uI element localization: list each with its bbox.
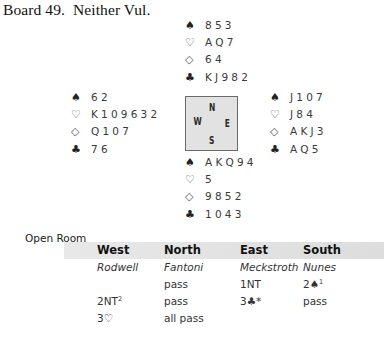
west-diamonds: ◇ Q107 <box>71 123 160 140</box>
south-hearts: ♡ 5 <box>185 171 257 188</box>
bid: pass <box>164 276 188 293</box>
board-title: Board 49. Neither Vul. <box>3 1 150 19</box>
bid-text: pass <box>164 278 188 290</box>
bid: pass <box>164 293 188 310</box>
footnote-marker: 1 <box>319 278 323 286</box>
bid-text: pass <box>164 295 188 307</box>
bid-text: pass <box>303 295 327 307</box>
north-diamonds: ◇ 64 <box>185 51 251 68</box>
east-hearts: ♡ J84 <box>270 106 327 123</box>
auction-header-row: West North East South <box>0 242 384 259</box>
spade-icon: ♠ <box>270 89 290 106</box>
header-north: North <box>164 242 201 259</box>
cards: 853 <box>205 17 235 34</box>
north-clubs: ♣ KJ982 <box>185 69 251 86</box>
spade-icon: ♠ <box>185 154 205 171</box>
heart-icon: ♡ <box>270 106 290 123</box>
cards: K109632 <box>91 106 160 123</box>
south-spades: ♠ AKQ94 <box>185 154 257 171</box>
cards: 9852 <box>205 188 245 205</box>
east-spades: ♠ J107 <box>270 89 327 106</box>
cards: 64 <box>205 51 225 68</box>
cards: 62 <box>91 89 111 106</box>
cards: AQ5 <box>290 141 322 158</box>
cards: Q107 <box>91 123 132 140</box>
header-south: South <box>303 242 341 259</box>
player-west: Rodwell <box>97 259 138 276</box>
west-clubs: ♣ 76 <box>71 141 160 158</box>
north-hearts: ♡ AQ7 <box>185 34 251 51</box>
diamond-icon: ◇ <box>71 123 91 140</box>
bid-text: 3♡ <box>97 312 113 324</box>
compass-box: N W E S <box>185 96 238 151</box>
south-hand: ♠ AKQ94 ♡ 5 ◇ 9852 ♣ 1043 <box>185 154 257 223</box>
auction-players-row: Rodwell Fantoni Meckstroth Nunes <box>0 259 384 276</box>
bid: pass <box>303 293 327 310</box>
club-icon: ♣ <box>71 141 91 158</box>
club-icon: ♣ <box>270 141 290 158</box>
east-hand: ♠ J107 ♡ J84 ◇ AKJ3 ♣ AQ5 <box>270 89 327 158</box>
player-south: Nunes <box>303 259 336 276</box>
bid-text: 2NT <box>97 295 118 307</box>
header-west: West <box>97 242 129 259</box>
cards: 76 <box>91 141 111 158</box>
diamond-icon: ◇ <box>185 188 205 205</box>
diamond-icon: ◇ <box>185 51 205 68</box>
cards: AKQ94 <box>205 154 257 171</box>
bid-text: all pass <box>164 312 204 324</box>
spade-icon: ♠ <box>185 17 205 34</box>
auction-round: pass 1NT 2♠1 <box>0 276 384 293</box>
compass-south: S <box>209 135 214 146</box>
west-spades: ♠ 62 <box>71 89 160 106</box>
cards: J107 <box>290 89 326 106</box>
bid: 2♠1 <box>303 276 323 293</box>
cards: AKJ3 <box>290 123 327 140</box>
cards: 1043 <box>205 206 245 223</box>
club-icon: ♣ <box>185 69 205 86</box>
east-diamonds: ◇ AKJ3 <box>270 123 327 140</box>
auction-round: 3♡ all pass <box>0 310 384 327</box>
auction-table: West North East South Rodwell Fantoni Me… <box>0 242 384 327</box>
spade-icon: ♠ <box>71 89 91 106</box>
auction-round: 2NT2 pass 3♣* pass <box>0 293 384 310</box>
bid: 3♣* <box>240 293 261 310</box>
bid: 2NT2 <box>97 293 122 310</box>
player-east: Meckstroth <box>240 259 298 276</box>
compass-east: E <box>225 118 230 129</box>
bid-text: 1NT <box>240 278 261 290</box>
bid: 1NT <box>240 276 261 293</box>
north-spades: ♠ 853 <box>185 17 251 34</box>
player-north: Fantoni <box>164 259 203 276</box>
heart-icon: ♡ <box>185 171 205 188</box>
footnote-marker: 2 <box>118 295 122 303</box>
bid: 3♡ <box>97 310 113 327</box>
bid-text: 3♣* <box>240 295 261 307</box>
cards: AQ7 <box>205 34 237 51</box>
west-hearts: ♡ K109632 <box>71 106 160 123</box>
club-icon: ♣ <box>185 206 205 223</box>
compass-north: N <box>209 102 215 113</box>
heart-icon: ♡ <box>185 34 205 51</box>
cards: J84 <box>290 106 316 123</box>
north-hand: ♠ 853 ♡ AQ7 ◇ 64 ♣ KJ982 <box>185 17 251 86</box>
south-clubs: ♣ 1043 <box>185 206 257 223</box>
cards: 5 <box>205 171 215 188</box>
south-diamonds: ◇ 9852 <box>185 188 257 205</box>
cards: KJ982 <box>205 69 251 86</box>
header-east: East <box>240 242 268 259</box>
bid-text: 2♠ <box>303 278 319 290</box>
east-clubs: ♣ AQ5 <box>270 141 327 158</box>
heart-icon: ♡ <box>71 106 91 123</box>
bid: all pass <box>164 310 204 327</box>
west-hand: ♠ 62 ♡ K109632 ◇ Q107 ♣ 76 <box>71 89 160 158</box>
diamond-icon: ◇ <box>270 123 290 140</box>
compass-west: W <box>193 116 201 127</box>
